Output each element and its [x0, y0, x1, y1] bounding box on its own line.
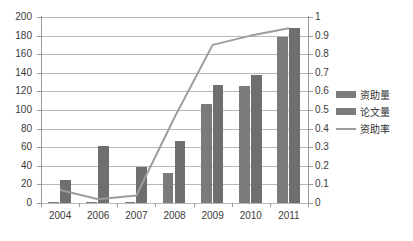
y-axis-left-tick	[37, 129, 41, 130]
x-axis-label-2011: 2011	[267, 210, 311, 221]
y-axis-right-tick-label: 0.1	[315, 179, 345, 189]
x-axis-tick	[194, 203, 195, 207]
x-axis-tick	[79, 203, 80, 207]
y-axis-left-tick	[37, 73, 41, 74]
legend-line-swatch-icon	[336, 128, 356, 130]
y-axis-left-tick-label: 20	[0, 179, 32, 189]
y-axis-right-tick-label: 0	[315, 198, 345, 208]
y-axis-left-tick	[37, 36, 41, 37]
y-axis-left-tick-label: 120	[0, 86, 32, 96]
line-series-funding-rate	[60, 28, 289, 199]
y-axis-left-tick-label: 60	[0, 142, 32, 152]
y-axis-left-tick-label: 80	[0, 124, 32, 134]
y-axis-right-tick	[309, 54, 313, 55]
legend-item-label: 资助量	[360, 87, 390, 102]
legend-item-paper-amount[interactable]: 论文量	[336, 103, 413, 120]
y-axis-right-tick-label: 0.3	[315, 142, 345, 152]
y-axis-left-tick-label: 40	[0, 161, 32, 171]
y-axis-right-tick	[309, 184, 313, 185]
y-axis-right-tick	[309, 91, 313, 92]
y-axis-right-tick	[309, 147, 313, 148]
gridline	[41, 203, 308, 204]
x-axis-tick	[117, 203, 118, 207]
y-axis-right-tick	[309, 110, 313, 111]
y-axis-right-tick-label: 0.8	[315, 49, 345, 59]
y-axis-left-tick	[37, 17, 41, 18]
y-axis-right-tick-label: 0.9	[315, 31, 345, 41]
y-axis-left-tick-label: 140	[0, 68, 32, 78]
legend-bar-swatch-icon	[336, 108, 356, 115]
y-axis-right-tick	[309, 203, 313, 204]
y-axis-left-tick	[37, 147, 41, 148]
chart-container: 020406080100120140160180200 00.10.20.30.…	[0, 0, 413, 241]
x-axis-tick	[41, 203, 42, 207]
y-axis-left	[41, 16, 42, 204]
legend-item-label: 资助率	[360, 121, 390, 136]
y-axis-right-tick	[309, 36, 313, 37]
legend-item-funding-amount[interactable]: 资助量	[336, 86, 413, 103]
y-axis-left-tick	[37, 110, 41, 111]
x-axis-tick	[270, 203, 271, 207]
y-axis-left-tick-label: 100	[0, 105, 32, 115]
y-axis-left-tick	[37, 184, 41, 185]
chart-legend: 资助量 论文量 资助率	[336, 86, 413, 137]
y-axis-right-tick	[309, 129, 313, 130]
y-axis-right-tick	[309, 73, 313, 74]
y-axis-right-tick-label: 0.2	[315, 161, 345, 171]
y-axis-left-tick-label: 180	[0, 31, 32, 41]
y-axis-left-tick-label: 0	[0, 198, 32, 208]
x-axis-tick	[308, 203, 309, 207]
y-axis-right-tick-label: 0.7	[315, 68, 345, 78]
y-axis-right-tick	[309, 17, 313, 18]
legend-bar-swatch-icon	[336, 91, 356, 98]
y-axis-left-tick	[37, 91, 41, 92]
line-series-layer	[41, 17, 308, 203]
legend-item-label: 论文量	[360, 104, 390, 119]
y-axis-right-tick-label: 1	[315, 12, 345, 22]
y-axis-left-tick	[37, 54, 41, 55]
y-axis-left-tick	[37, 166, 41, 167]
x-axis-tick	[155, 203, 156, 207]
y-axis-right-tick	[309, 166, 313, 167]
y-axis-left-tick-label: 200	[0, 12, 32, 22]
x-axis-tick	[232, 203, 233, 207]
y-axis-left-tick-label: 160	[0, 49, 32, 59]
legend-item-funding-rate[interactable]: 资助率	[336, 120, 413, 137]
